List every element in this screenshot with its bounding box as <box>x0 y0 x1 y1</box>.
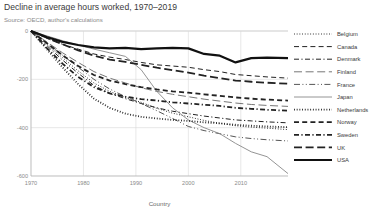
legend-label-usa: USA <box>337 157 349 163</box>
y-tick-label: 0 <box>25 28 28 34</box>
x-axis-label: Country <box>149 200 172 207</box>
legend-label-france: France <box>337 82 355 88</box>
legend-label-belgium: Belgium <box>337 31 358 37</box>
chart-subtitle: Source: OECD, author's calculations <box>4 16 103 23</box>
x-tick-label: 1990 <box>130 180 142 186</box>
x-tick-label: 2010 <box>235 180 247 186</box>
legend-label-japan: Japan <box>337 94 353 100</box>
legend-label-denmark: Denmark <box>337 56 361 62</box>
legend-label-canada: Canada <box>337 44 358 50</box>
x-tick-label: 1970 <box>25 180 37 186</box>
y-tick-label: -600 <box>17 173 28 179</box>
legend-label-uk: UK <box>337 145 345 151</box>
chart-figure: Decline in average hours worked, 1970–20… <box>0 0 384 218</box>
x-tick-label: 1980 <box>77 180 89 186</box>
x-tick-label: 2000 <box>182 180 194 186</box>
legend-label-finland: Finland <box>337 69 356 75</box>
chart-title: Decline in average hours worked, 1970–20… <box>4 2 177 12</box>
legend-label-sweden: Sweden <box>337 132 358 138</box>
y-tick-label: -400 <box>17 125 28 131</box>
legend-label-norway: Norway <box>337 119 357 125</box>
y-tick-label: -200 <box>17 76 28 82</box>
legend-label-netherlands: Netherlands <box>337 107 368 113</box>
